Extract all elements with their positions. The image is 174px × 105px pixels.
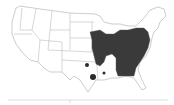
- occurrence-dot: [103, 72, 106, 75]
- occurrence-dot: [85, 63, 89, 67]
- occurrence-dot: [90, 74, 96, 80]
- us-distribution-map: [0, 0, 174, 105]
